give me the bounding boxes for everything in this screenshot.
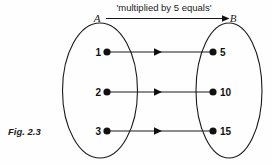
figure-container: 'multiplied by 5 equals' A B 1 5 2 10 3 …: [0, 0, 272, 165]
element-label-b-10: 10: [220, 87, 232, 98]
figure-caption: Fig. 2.3: [8, 126, 41, 137]
element-label-b-15: 15: [220, 126, 232, 137]
node-dot-a-3: [103, 127, 110, 134]
element-label-a-2: 2: [95, 87, 101, 98]
element-label-b-5: 5: [220, 47, 226, 58]
element-label-a-1: 1: [95, 47, 101, 58]
node-dot-a-2: [103, 88, 110, 95]
node-dot-b-5: [209, 48, 216, 55]
mapping-arrow-head-icon-2: [154, 88, 162, 96]
node-dot-b-10: [209, 88, 216, 95]
relation-label: 'multiplied by 5 equals': [117, 2, 212, 13]
mapping-arrow-head-icon-3: [154, 127, 162, 135]
set-a-label: A: [93, 12, 101, 24]
set-b-label: B: [230, 12, 237, 24]
relation-arrow-head-icon: [222, 15, 230, 22]
element-label-a-3: 3: [95, 126, 101, 137]
node-dot-a-1: [103, 48, 110, 55]
node-dot-b-15: [209, 127, 216, 134]
mapping-arrow-head-icon-1: [154, 48, 162, 56]
mapping-diagram: 'multiplied by 5 equals' A B 1 5 2 10 3 …: [0, 0, 272, 165]
